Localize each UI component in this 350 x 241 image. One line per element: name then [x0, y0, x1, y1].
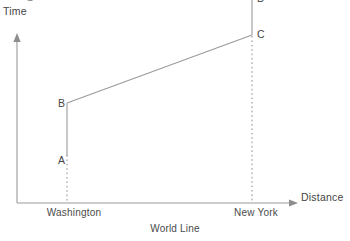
world-line-path-group [67, 0, 252, 156]
stray-mark-top: D [27, 0, 35, 3]
time-axis-group [13, 33, 20, 203]
time-axis-title: Time [3, 6, 27, 17]
point-label-d: D [257, 0, 265, 4]
point-label-a: A [58, 155, 65, 166]
x-tick-label-washington: Washington [47, 208, 101, 218]
time-axis-arrowhead [13, 33, 20, 42]
distance-axis-title: Distance [301, 192, 343, 203]
world-line-diagram-canvas [0, 0, 350, 241]
distance-axis-group [17, 199, 298, 206]
distance-axis-arrowhead [289, 199, 298, 206]
x-tick-label-new-york: New York [234, 208, 278, 218]
point-label-c: C [257, 29, 265, 40]
figure-caption: World Line [150, 224, 200, 234]
world-line-figure: Time Distance A B C D D Washington New Y… [0, 0, 350, 241]
world-line-segment-bc [67, 35, 252, 103]
point-label-b: B [58, 98, 65, 109]
